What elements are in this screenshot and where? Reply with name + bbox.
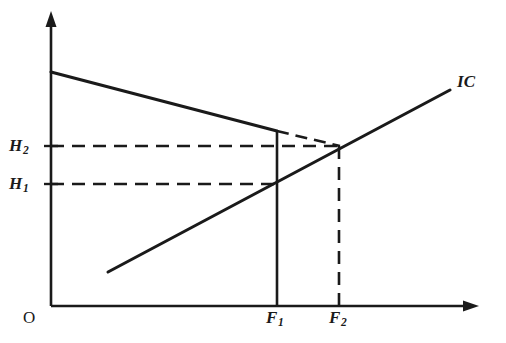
axis-label-h1: H1 [9,175,28,192]
economics-diagram: H2 H1 F1 F2 IC O [0,0,506,343]
downward-sloping-curve [51,72,277,131]
downward-sloping-curve-extension [277,131,340,146]
axis-label-f1: F1 [266,309,284,326]
ic-curve [108,90,450,272]
axis-label-h2: H2 [9,137,28,154]
x-axis-arrow-icon [463,301,479,312]
origin-label: O [23,309,35,326]
diagram-canvas [0,0,506,343]
y-axis-arrow-icon [46,11,57,27]
axis-label-f2: F2 [329,309,347,326]
curve-label-ic: IC [457,73,475,90]
